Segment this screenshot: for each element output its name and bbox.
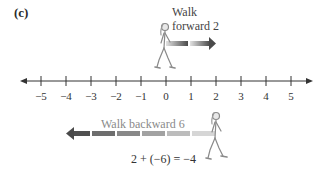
tick-label: 5 (288, 90, 294, 102)
tick-label: 4 (263, 90, 269, 102)
backward-arrow (66, 127, 215, 140)
tick-label: 1 (188, 90, 194, 102)
number-line (20, 76, 313, 86)
tick-label: −2 (110, 90, 122, 102)
tick-label: 2 (213, 90, 219, 102)
tick-label: 3 (238, 90, 244, 102)
tick-label: −5 (35, 90, 47, 102)
tick-label: 0 (163, 90, 169, 102)
tick-label: −4 (60, 90, 72, 102)
forward-arrow (166, 37, 216, 50)
equation: 2 + (−6) = −4 (131, 152, 196, 167)
tick-label: −1 (135, 90, 147, 102)
tick-label: −3 (85, 90, 97, 102)
